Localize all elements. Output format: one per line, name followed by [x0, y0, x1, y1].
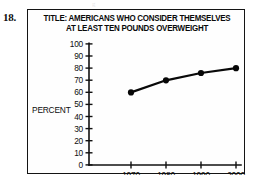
y-tick-label-80: 80: [74, 63, 83, 73]
y-tick-label-50: 50: [74, 99, 83, 109]
y-tick-label-30: 30: [74, 124, 83, 134]
chart-container: TITLE: AMERICANS WHO CONSIDER THEMSELVES…: [27, 9, 245, 174]
data-series-line: [131, 68, 236, 92]
x-tick-label-2000: 2000: [227, 170, 245, 175]
y-tick-label-0: 0: [79, 160, 84, 170]
data-point-1970: [128, 89, 134, 95]
data-point-1980: [163, 77, 169, 83]
y-tick-label-60: 60: [74, 87, 83, 97]
plot-area: 100 90 80 70 60 50 40 30 20 10 0 1970: [28, 10, 246, 175]
scan-artifact: g: [92, 0, 152, 7]
x-tick-label-1980: 1980: [157, 170, 175, 175]
y-tick-label-90: 90: [74, 51, 83, 61]
y-tick-label-40: 40: [74, 112, 83, 122]
y-tick-label-100: 100: [70, 39, 84, 49]
y-tick-label-10: 10: [74, 148, 83, 158]
line-chart-svg: 100 90 80 70 60 50 40 30 20 10 0 1970: [28, 10, 246, 175]
y-tick-label-20: 20: [74, 136, 83, 146]
item-number: 18.: [3, 11, 16, 23]
data-point-1990: [198, 70, 204, 76]
x-tick-label-1990: 1990: [192, 170, 210, 175]
y-tick-label-70: 70: [74, 75, 83, 85]
y-tick-labels: 100 90 80 70 60 50 40 30 20 10 0: [70, 39, 84, 170]
x-tick-label-1970: 1970: [122, 170, 140, 175]
x-tick-labels: 1970 1980 1990 2000: [122, 170, 245, 175]
data-point-2000: [233, 65, 239, 71]
